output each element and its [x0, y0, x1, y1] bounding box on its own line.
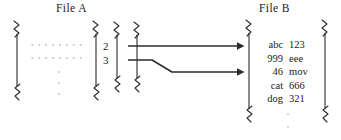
row-index-3: 3: [103, 55, 109, 66]
record-key: cat: [258, 80, 283, 91]
record-key: abc: [258, 39, 283, 50]
file-a-left-edge: [14, 21, 20, 100]
file-a-title: File A: [56, 3, 87, 15]
record-value: 123: [283, 39, 318, 50]
table-row: 46 mov: [258, 65, 318, 79]
mapping-column-bracket: [134, 22, 140, 92]
table-row: cat 666: [258, 79, 318, 93]
arrowhead-1: [237, 42, 245, 50]
record-value: mov: [283, 66, 318, 77]
record-key: 999: [258, 53, 283, 64]
record-value: eee: [283, 53, 318, 64]
file-b-title: File B: [259, 3, 290, 15]
file-mapping-diagram: File A File B 2 3 abc 123 999 eee 46 mov…: [0, 0, 341, 140]
file-a-dotted-rows: [32, 45, 86, 58]
record-value: 321: [283, 93, 318, 104]
arrow-row-3-to-file-b-line-3: [128, 60, 238, 72]
arrowhead-2: [237, 68, 245, 76]
file-a-vertical-ellipsis: [58, 71, 60, 95]
row-index-2: 2: [103, 41, 109, 52]
file-b-vertical-ellipsis: [287, 113, 289, 128]
record-key: dog: [258, 93, 283, 104]
file-b-right-edge: [322, 20, 328, 122]
file-a-right-edge: [93, 21, 99, 100]
table-row: abc 123: [258, 38, 318, 52]
file-b-record-list: abc 123 999 eee 46 mov cat 666 dog 321: [258, 38, 318, 106]
table-row: dog 321: [258, 92, 318, 106]
file-b-left-edge: [246, 20, 252, 122]
row-index-bracket: [114, 22, 120, 92]
record-value: 666: [283, 80, 318, 91]
record-key: 46: [258, 66, 283, 77]
table-row: 999 eee: [258, 52, 318, 66]
